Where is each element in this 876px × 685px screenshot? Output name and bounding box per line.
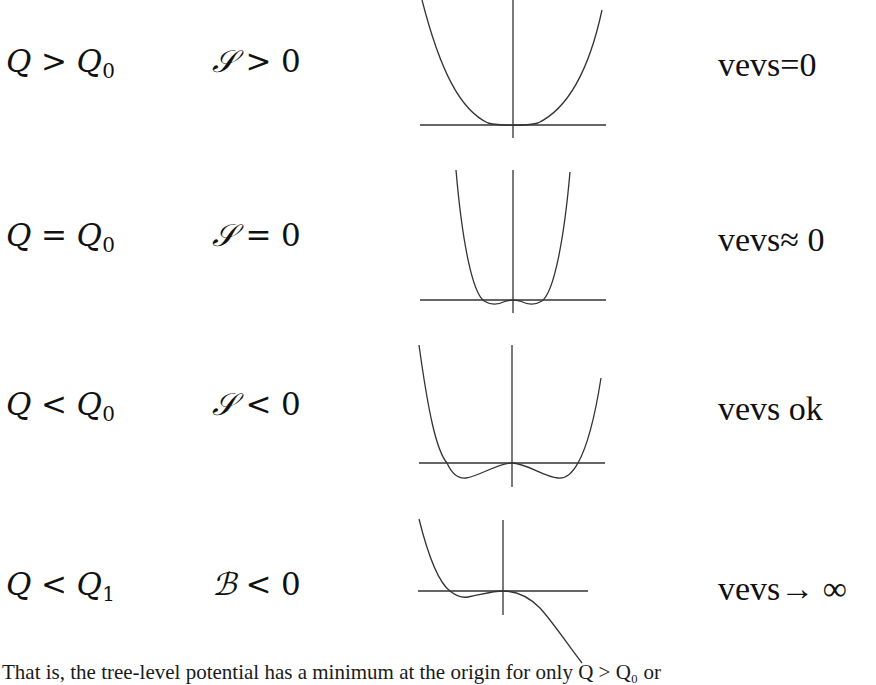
subscript: 0: [102, 59, 115, 83]
potential-curve: [419, 519, 582, 663]
vev-label: vevs→ ∞: [718, 570, 847, 608]
q-condition: Q<Q0: [6, 386, 116, 426]
coefficient-condition: 𝒮<0: [212, 386, 301, 423]
subscript: 0: [102, 402, 115, 426]
relation-operator: <: [246, 566, 272, 602]
relation-operator: <: [41, 386, 67, 422]
plot-unbounded-below: [418, 519, 588, 663]
relation-operator: =: [246, 217, 272, 253]
coefficient-condition: ℬ<0: [212, 566, 301, 602]
potential-curve: [456, 170, 570, 304]
body-text-line: That is, the tree-level potential has a …: [2, 660, 661, 685]
value: 0: [281, 566, 301, 602]
subscript: 0: [102, 233, 115, 257]
q-symbol: Q: [76, 386, 102, 422]
relation-operator: =: [41, 217, 67, 253]
plot-double-well: [419, 345, 605, 487]
coefficient-symbol: ℬ: [212, 566, 237, 602]
q-condition: Q<Q1: [6, 566, 116, 606]
q-symbol: Q: [6, 386, 32, 422]
value: 0: [281, 386, 301, 422]
q-symbol: Q: [6, 566, 32, 602]
value: 0: [281, 217, 301, 253]
coefficient-symbol: 𝒮: [212, 217, 237, 253]
relation-operator: <: [41, 566, 67, 602]
potential-curve: [422, 0, 602, 125]
coefficient-condition: 𝒮>0: [212, 43, 301, 80]
q-condition: Q=Q0: [6, 217, 116, 257]
q-symbol: Q: [76, 217, 102, 253]
plot-single-minimum: [420, 0, 606, 138]
q-condition: Q>Q0: [6, 43, 116, 83]
coefficient-symbol: 𝒮: [212, 43, 237, 79]
q-symbol: Q: [76, 43, 102, 79]
vev-label: vevs≈ 0: [718, 221, 824, 259]
value: 0: [281, 43, 301, 79]
relation-operator: >: [41, 43, 67, 79]
potential-curve: [419, 345, 601, 478]
q-symbol: Q: [76, 566, 102, 602]
vev-label: vevs=0: [718, 46, 817, 84]
subscript: 1: [102, 582, 115, 606]
plot-shallow-double-well: [420, 170, 606, 313]
coefficient-condition: 𝒮=0: [212, 217, 301, 254]
relation-operator: >: [246, 43, 272, 79]
relation-operator: <: [246, 386, 272, 422]
coefficient-symbol: 𝒮: [212, 386, 237, 422]
q-symbol: Q: [6, 217, 32, 253]
q-symbol: Q: [6, 43, 32, 79]
vev-label: vevs ok: [718, 390, 823, 428]
